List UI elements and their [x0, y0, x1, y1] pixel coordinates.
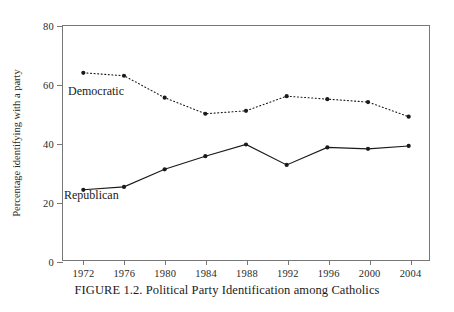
- figure-container: Percentage identifying with a party 0204…: [0, 0, 454, 312]
- y-tick-label: 0: [49, 257, 54, 268]
- x-tick-mark: [370, 260, 371, 265]
- data-point-democratic: [122, 74, 126, 78]
- x-tick-label: 2004: [400, 268, 422, 279]
- x-tick-label: 1980: [154, 268, 176, 279]
- data-point-republican: [407, 144, 411, 148]
- x-tick-mark: [124, 260, 125, 265]
- x-tick-label: 1984: [195, 268, 217, 279]
- x-tick-label: 1972: [73, 268, 95, 279]
- x-tick-label: 2000: [359, 268, 381, 279]
- x-tick-mark: [83, 260, 84, 265]
- data-point-republican: [325, 145, 329, 149]
- series-label-republican: Republican: [64, 188, 119, 203]
- y-tick-mark: [57, 262, 63, 263]
- x-tick-label: 1996: [318, 268, 340, 279]
- plot-area: 020406080 197219761980198419881992199620…: [62, 25, 430, 261]
- figure-caption: FIGURE 1.2. Political Party Identificati…: [0, 283, 454, 298]
- data-point-democratic: [203, 112, 207, 116]
- data-point-democratic: [244, 109, 248, 113]
- y-tick-label: 20: [43, 198, 54, 209]
- data-point-democratic: [163, 96, 167, 100]
- y-tick-label: 80: [43, 21, 54, 32]
- data-point-democratic: [81, 71, 85, 75]
- x-tick-mark: [247, 260, 248, 265]
- x-tick-mark: [206, 260, 207, 265]
- data-point-democratic: [407, 115, 411, 119]
- data-point-republican: [366, 147, 370, 151]
- series-layer: [63, 26, 429, 260]
- data-point-republican: [244, 142, 248, 146]
- y-tick-label: 40: [43, 139, 54, 150]
- y-axis-title: Percentage identifying with a party: [11, 69, 22, 217]
- x-tick-mark: [288, 260, 289, 265]
- data-point-democratic: [366, 100, 370, 104]
- data-point-republican: [122, 185, 126, 189]
- data-point-republican: [203, 154, 207, 158]
- x-tick-mark: [329, 260, 330, 265]
- x-tick-label: 1976: [113, 268, 135, 279]
- x-tick-label: 1992: [277, 268, 299, 279]
- series-label-democratic: Democratic: [68, 84, 124, 99]
- data-point-democratic: [325, 97, 329, 101]
- x-tick-mark: [165, 260, 166, 265]
- data-point-republican: [163, 167, 167, 171]
- x-tick-label: 1988: [236, 268, 258, 279]
- data-point-republican: [285, 163, 289, 167]
- x-tick-mark: [411, 260, 412, 265]
- series-line-republican: [83, 144, 408, 189]
- data-point-democratic: [285, 94, 289, 98]
- y-tick-label: 60: [43, 80, 54, 91]
